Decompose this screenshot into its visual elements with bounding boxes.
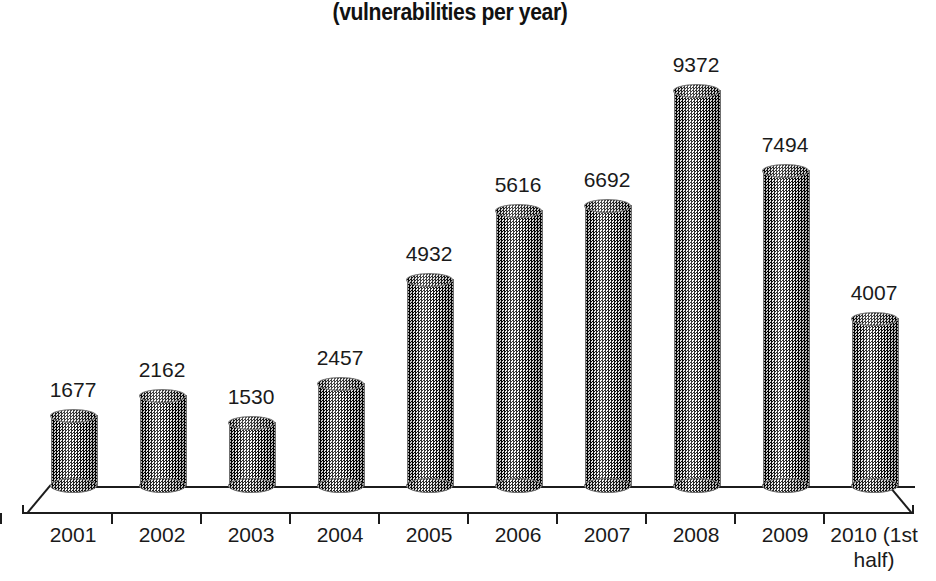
value-label-2007: 6692 — [562, 168, 652, 192]
category-label-2005: 2005 — [379, 522, 479, 547]
bar-body — [585, 205, 632, 486]
value-label-2008: 9372 — [651, 53, 741, 77]
value-label-2005: 4932 — [384, 242, 474, 266]
plot-area: 1677 2162 1530 2457 4932 — [0, 0, 936, 581]
bar-2007 — [585, 205, 630, 486]
category-label-2001: 2001 — [23, 522, 123, 547]
bar-body — [763, 170, 810, 486]
category-label-2009: 2009 — [735, 522, 835, 547]
bar-top-cap — [495, 204, 542, 218]
bar-top-cap — [851, 312, 898, 326]
category-label-2006: 2006 — [468, 522, 568, 547]
value-label-2010: 4007 — [829, 281, 919, 305]
bar-top-cap — [317, 377, 364, 391]
bar-body — [51, 415, 98, 486]
bar-base-cap — [406, 478, 453, 493]
category-label-2002: 2002 — [112, 522, 212, 547]
bar-2006 — [496, 210, 541, 486]
bar-2003 — [229, 422, 274, 486]
bar-body — [852, 318, 899, 486]
axis-tick — [0, 513, 2, 524]
bar-body — [674, 90, 721, 486]
bar-2001 — [51, 415, 96, 486]
bar-body — [496, 210, 543, 486]
category-label-2010: 2010 (1st half) — [829, 522, 919, 572]
value-label-2004: 2457 — [295, 346, 385, 370]
value-label-2001: 1677 — [28, 378, 118, 402]
floor-left-edge — [27, 485, 52, 514]
category-label-2004: 2004 — [290, 522, 390, 547]
bar-base-cap — [762, 478, 809, 493]
bar-base-cap — [50, 478, 97, 493]
bar-top-cap — [406, 273, 453, 287]
bar-top-cap — [50, 409, 97, 423]
category-label-2007: 2007 — [557, 522, 657, 547]
bar-base-cap — [317, 478, 364, 493]
bar-top-cap — [139, 389, 186, 403]
bar-2008 — [674, 90, 719, 486]
value-label-2003: 1530 — [206, 385, 296, 409]
category-label-2010-line2: half) — [829, 547, 919, 572]
bar-top-cap — [228, 416, 275, 430]
bar-2010 — [852, 318, 897, 486]
bar-base-cap — [139, 478, 186, 493]
bar-2009 — [763, 170, 808, 486]
bar-2002 — [140, 395, 185, 486]
bar-base-cap — [673, 478, 720, 493]
bar-body — [318, 383, 365, 486]
axis-left-end-tick — [22, 505, 24, 514]
value-label-2009: 7494 — [740, 133, 830, 157]
bar-top-cap — [673, 84, 720, 98]
bar-base-cap — [495, 478, 542, 493]
bar-base-cap — [228, 478, 275, 493]
bar-body — [407, 279, 454, 486]
bar-top-cap — [584, 199, 631, 213]
bar-base-cap — [851, 478, 898, 493]
category-label-2010-line1: 2010 (1st — [829, 522, 919, 547]
bar-body — [229, 422, 276, 486]
category-label-2008: 2008 — [646, 522, 746, 547]
chart-figure: (vulnerabilities per year) 1677 — [0, 0, 936, 581]
axis-right-end-tick — [912, 505, 914, 514]
category-label-2003: 2003 — [201, 522, 301, 547]
bar-body — [140, 395, 187, 486]
value-label-2002: 2162 — [117, 358, 207, 382]
bar-2005 — [407, 279, 452, 486]
value-label-2006: 5616 — [473, 173, 563, 197]
bar-2004 — [318, 383, 363, 486]
bar-base-cap — [584, 478, 631, 493]
bar-top-cap — [762, 164, 809, 178]
